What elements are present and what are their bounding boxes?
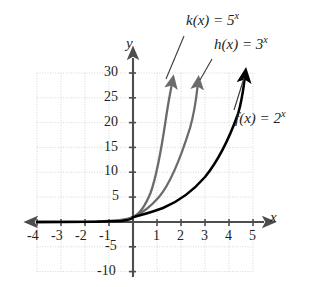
leader-h [200, 59, 212, 80]
y-tick-label-15: 15 [104, 139, 118, 155]
axes [36, 58, 264, 277]
annotation-k-text: k(x) = 5 [186, 12, 234, 28]
x-tick-label-4: 4 [225, 228, 232, 244]
annotation-f-exponent: x [281, 108, 286, 119]
y-tick-label-neg10: -10 [97, 263, 116, 279]
y-tick-label-10: 10 [104, 163, 118, 179]
x-tick-label-neg4: -4 [27, 228, 39, 244]
exponential-functions-figure: 30 25 20 15 10 5 -5 -10 -4 -3 -2 -1 1 2 … [0, 0, 323, 287]
x-tick-label-neg3: -3 [51, 228, 63, 244]
y-tick-label-20: 20 [104, 114, 118, 130]
annotation-f: f(x) = 2x [235, 110, 285, 127]
x-tick-label-3: 3 [201, 228, 208, 244]
annotation-h-exponent: x [263, 34, 268, 45]
x-tick-label-neg1: -1 [99, 228, 111, 244]
grid-lines [37, 73, 253, 272]
y-tick-label-25: 25 [104, 89, 118, 105]
annotation-k: k(x) = 5x [186, 12, 239, 29]
annotation-h-text: h(x) = 3 [214, 36, 263, 52]
x-tick-label-2: 2 [177, 228, 184, 244]
curve-f [37, 80, 245, 222]
annotation-f-text: f(x) = 2 [235, 110, 281, 126]
x-axis-label: x [270, 209, 277, 226]
annotation-k-exponent: x [234, 10, 239, 21]
graph-canvas [0, 0, 323, 287]
annotation-h: h(x) = 3x [214, 36, 268, 53]
y-tick-label-30: 30 [104, 64, 118, 80]
x-tick-label-5: 5 [249, 228, 256, 244]
x-tick-label-1: 1 [153, 228, 160, 244]
y-tick-label-5: 5 [112, 188, 119, 204]
y-axis-label: y [126, 35, 133, 52]
x-tick-label-neg2: -2 [75, 228, 87, 244]
